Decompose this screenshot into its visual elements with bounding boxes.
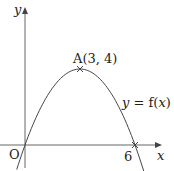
- vertex-label: A(3, 4): [73, 52, 117, 65]
- curve-label-suffix: ): [166, 95, 171, 110]
- curve-label: y = f(x): [122, 96, 171, 109]
- curve-label-var: x: [158, 95, 165, 110]
- origin-label: O: [9, 148, 20, 161]
- x-axis-label: x: [157, 149, 164, 162]
- curve-label-prefix: = f(: [129, 95, 158, 110]
- graph-canvas: [0, 0, 174, 171]
- y-axis-label: y: [14, 3, 21, 16]
- y-axis-arrow-icon: [22, 7, 28, 14]
- x-intercept-label: 6: [124, 150, 132, 163]
